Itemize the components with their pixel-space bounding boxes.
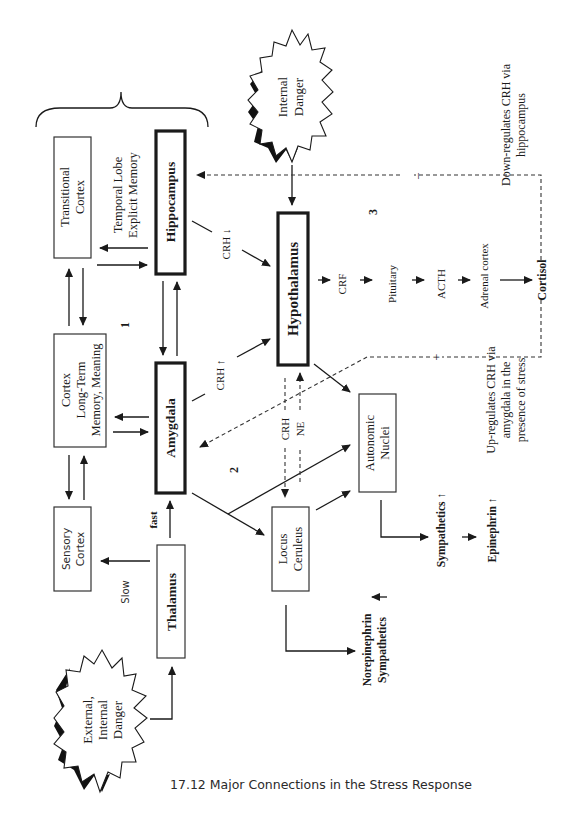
slow-label: Slow (120, 580, 131, 603)
internal-danger-label-1: Internal (275, 76, 290, 117)
crh-down-label: CRH ↓ (220, 229, 232, 260)
pituitary-label: Pituitary (386, 265, 398, 303)
cortex-label-1: Cortex (59, 372, 73, 407)
thalamus-box[interactable]: Thalamus (157, 545, 185, 658)
pathway-3-label: 3 (366, 209, 380, 215)
sensory-cortex-label-2: Cortex (74, 532, 86, 567)
locus-ceruleus-label-1: Locus (276, 534, 290, 565)
fast-label: fast (147, 511, 159, 528)
hippocampus-label: Hippocampus (163, 162, 178, 242)
pathway-2-label: 2 (227, 467, 241, 473)
sympathetics-label: Sympathetics (376, 617, 389, 683)
arrow-autonomic-to-sympathetics (381, 500, 428, 537)
transitional-cortex-label-2: Cortex (73, 179, 87, 214)
stress-response-diagram: Transitional Cortex Hippocampus Cortex L… (0, 0, 578, 820)
epinephrin-increase-label: Epinephrin ↑ (486, 498, 499, 563)
internal-danger-burst[interactable]: Internal Danger (248, 30, 333, 163)
up-regulates-label-1: Up-regulates CRH via (484, 346, 498, 454)
sensory-cortex-box[interactable]: Sensory Cortex (54, 507, 91, 591)
temporal-lobe-brace (36, 92, 208, 127)
cortex-box[interactable]: Cortex Long-Term Memory, Meaning (54, 334, 106, 447)
cortisol-label: Cortisol (535, 259, 549, 301)
hypothalamus-label: Hypothalamus (285, 242, 301, 336)
sensory-cortex-label-1: Sensory (60, 528, 72, 570)
crf-label: CRF (336, 274, 348, 295)
adrenal-cortex-label: Adrenal cortex (478, 243, 490, 309)
locus-ceruleus-box[interactable]: Locus Ceruleus (272, 507, 309, 591)
cortex-label-2: Long-Term (74, 361, 88, 418)
arrow-hippocampus-to-hypothalamus-a (192, 221, 212, 232)
amygdala-box[interactable]: Amygdala (156, 363, 185, 493)
arrow-external-danger-to-thalamus (150, 667, 172, 719)
down-regulates-label-1: Down-regulates CRH via (499, 63, 513, 186)
external-danger-burst[interactable]: External, Internal Danger (54, 650, 147, 792)
arrow-hippocampus-to-hypothalamus-b (242, 250, 270, 266)
norepinephrin-label: Norepinephrin (361, 613, 374, 686)
temporal-lobe-label-1: Temporal Lobe (111, 156, 125, 233)
transitional-cortex-label-1: Transitional (58, 166, 72, 226)
arrow-amygdala-to-hypothalamus-a (192, 394, 205, 401)
crh-label: CRH (279, 418, 291, 441)
ne-label: NE (294, 421, 306, 436)
arrow-amygdala-to-hypothalamus-b (237, 339, 270, 357)
arrow-locus-to-autonomic (316, 491, 350, 510)
up-regulates-label-2: amygdala in the (499, 362, 513, 439)
transitional-cortex-box[interactable]: Transitional Cortex (54, 137, 91, 258)
pathway-1-label: 1 (118, 322, 132, 328)
cortex-label-3: Memory, Meaning (89, 343, 103, 437)
external-danger-label-3: Danger (110, 700, 125, 739)
arrow-hypothalamus-to-autonomic (314, 364, 350, 392)
acth-label: ACTH (435, 269, 447, 299)
locus-ceruleus-label-2: Ceruleus (291, 527, 305, 572)
hippocampus-box[interactable]: Hippocampus (156, 131, 185, 274)
autonomic-nuclei-box[interactable]: Autonomic Nuclei (359, 394, 396, 492)
plus-sign: + (430, 353, 444, 360)
external-danger-label-1: External, (80, 696, 95, 743)
amygdala-label: Amygdala (163, 398, 178, 458)
sympathetics-increase-label: Sympathetics ↑ (435, 493, 448, 567)
minus-sign: – (410, 172, 424, 180)
thalamus-label: Thalamus (164, 573, 179, 631)
down-regulates-label-2: hippocampus (514, 93, 528, 157)
temporal-lobe-label-2: Explicit Memory (126, 151, 140, 237)
autonomic-nuclei-label-1: Autonomic (363, 414, 377, 471)
up-regulates-label-3: presence of stress (514, 357, 528, 442)
figure-caption: 17.12 Major Connections in the Stress Re… (170, 777, 472, 792)
crh-up-label: CRH ↑ (214, 360, 226, 391)
external-danger-label-2: Internal (95, 699, 110, 740)
arrow-amygdala-to-autonomic (228, 445, 350, 514)
arrow-locus-to-norepinephrin (286, 605, 355, 651)
internal-danger-label-2: Danger (291, 77, 306, 116)
hypothalamus-box[interactable]: Hypothalamus (278, 213, 308, 365)
autonomic-nuclei-label-2: Nuclei (378, 426, 392, 460)
